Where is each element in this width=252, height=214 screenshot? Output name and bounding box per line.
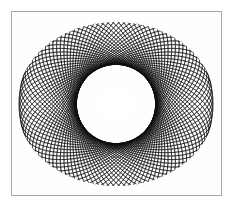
page-title: Spirograph Moire Figure xyxy=(0,0,1,1)
center-squircle-void-shape xyxy=(96,86,136,122)
plate-frame xyxy=(11,11,222,196)
figure-page: Spirograph Moire Figure xyxy=(0,0,252,214)
center-squircle-void xyxy=(96,86,136,122)
spirograph-figure xyxy=(12,12,221,195)
